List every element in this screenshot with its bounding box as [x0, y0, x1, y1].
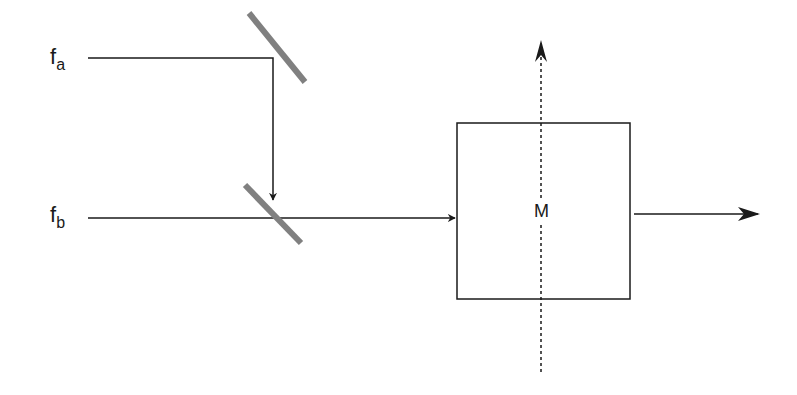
mirror-top: [249, 13, 305, 82]
label-fa-sub: a: [56, 56, 65, 73]
label-fa: fa: [50, 44, 65, 70]
output-beam: [634, 207, 760, 221]
optical-diagram: [0, 0, 797, 395]
beam-fa: [88, 58, 273, 200]
label-fb: fb: [50, 202, 65, 228]
box-label-m: M: [533, 201, 550, 222]
label-fb-sub: b: [56, 214, 65, 231]
